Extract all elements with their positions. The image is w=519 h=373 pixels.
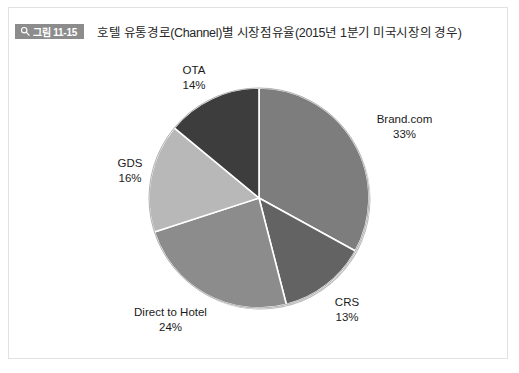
pie-label-direct-to-hotel-value: 24% (103, 320, 238, 335)
pie-label-ota: OTA 14% (159, 63, 229, 93)
pie-chart-svg (9, 8, 507, 358)
pie-slice-group (149, 88, 371, 310)
pie-label-crs-name: CRS (312, 295, 382, 310)
pie-label-brand-com-name: Brand.com (352, 112, 457, 127)
pie-label-brand-com: Brand.com 33% (352, 112, 457, 142)
pie-label-gds-name: GDS (95, 156, 165, 171)
pie-label-brand-com-value: 33% (352, 127, 457, 142)
pie-label-ota-name: OTA (159, 63, 229, 78)
pie-label-direct-to-hotel: Direct to Hotel 24% (103, 305, 238, 335)
pie-label-gds-value: 16% (95, 171, 165, 186)
pie-label-gds: GDS 16% (95, 156, 165, 186)
pie-chart: OTA 14% Brand.com 33% GDS 16% CRS 13% Di… (9, 8, 507, 358)
pie-label-crs: CRS 13% (312, 295, 382, 325)
pie-label-ota-value: 14% (159, 78, 229, 93)
figure-panel: 그림 11-15 호텔 유통경로(Channel)별 시장점유율(2015년 1… (8, 7, 508, 359)
pie-label-direct-to-hotel-name: Direct to Hotel (103, 305, 238, 320)
pie-label-crs-value: 13% (312, 310, 382, 325)
